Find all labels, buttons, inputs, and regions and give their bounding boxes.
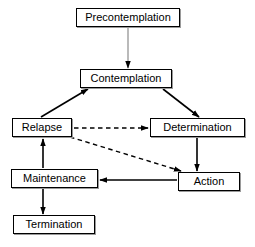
node-precontemplation[interactable]: Precontemplation — [76, 8, 180, 27]
node-action[interactable]: Action — [178, 172, 240, 191]
node-label-maintenance: Maintenance — [23, 173, 86, 184]
edge-relapse-to-action — [70, 137, 181, 171]
node-relapse[interactable]: Relapse — [12, 118, 72, 137]
node-label-termination: Termination — [26, 219, 83, 230]
node-maintenance[interactable]: Maintenance — [11, 169, 98, 188]
node-determination[interactable]: Determination — [150, 118, 245, 137]
node-label-action: Action — [194, 176, 225, 187]
node-label-relapse: Relapse — [22, 122, 62, 133]
node-contemplation[interactable]: Contemplation — [80, 69, 172, 88]
edge-relapse-to-contemplation — [41, 89, 88, 117]
node-label-determination: Determination — [163, 122, 231, 133]
edge-contemplation-to-determination — [163, 89, 199, 117]
node-label-contemplation: Contemplation — [91, 73, 162, 84]
node-label-precontemplation: Precontemplation — [85, 12, 171, 23]
node-termination[interactable]: Termination — [13, 215, 95, 234]
stages-of-change-diagram: Precontemplation Contemplation Relapse D… — [0, 0, 255, 247]
